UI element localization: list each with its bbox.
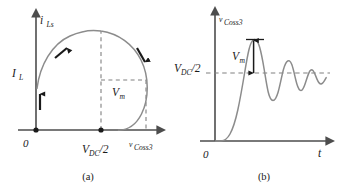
panel-a-current-label: I (11, 67, 17, 79)
panel-a-origin-dot (33, 127, 38, 132)
panel-b-origin-label: 0 (203, 148, 209, 160)
panel-a-center-dot (98, 127, 103, 132)
panel-a: i Ls I L 0 V DC /2 v Coss3 V m (a) (11, 14, 158, 183)
panel-b-x-axis-label: t (318, 147, 322, 159)
panel-a-arrow-up-right (55, 48, 67, 58)
panel-b-caption: (b) (258, 171, 271, 183)
panel-b-level-label-tail: /2 (191, 62, 201, 74)
panel-a-amplitude-label-subscript: m (120, 92, 126, 101)
panel-b-y-axis-label-subscript: Coss3 (224, 18, 243, 27)
figure-root: i Ls I L 0 V DC /2 v Coss3 V m (a) (0, 0, 348, 191)
panel-a-x-tick-max-label: v (129, 140, 133, 149)
panel-a-x-tick-center-tail: /2 (99, 143, 109, 155)
panel-b-y-axis-label: v (219, 15, 223, 24)
panel-a-x-tick-max-subscript: Coss3 (134, 143, 153, 152)
panel-a-y-axis-label-subscript: Ls (46, 20, 54, 29)
two-panel-waveform-figure: i Ls I L 0 V DC /2 v Coss3 V m (a) (0, 0, 348, 191)
panel-b: v Coss3 V DC /2 V m 0 t (b) (174, 14, 330, 183)
panel-a-origin-label: 0 (23, 137, 29, 149)
panel-a-y-axis-label: i (40, 14, 43, 26)
panel-b-amplitude-label-subscript: m (240, 56, 246, 65)
panel-a-current-label-subscript: L (18, 73, 23, 82)
panel-a-caption: (a) (82, 171, 94, 183)
